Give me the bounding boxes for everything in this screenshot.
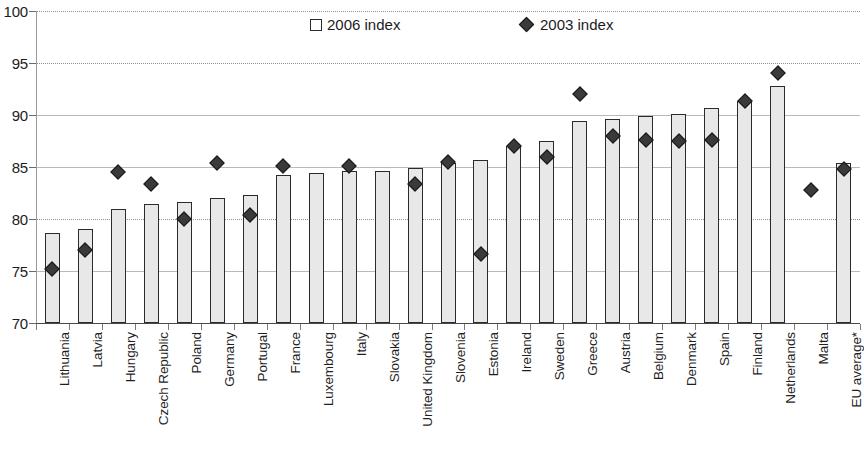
x-label-latvia: Latvia	[90, 332, 105, 367]
x-label-eu-average: EU average*	[849, 332, 864, 407]
x-label-ireland: Ireland	[519, 332, 534, 373]
x-label-lithuania: Lithuania	[57, 332, 72, 386]
x-label-spain: Spain	[717, 332, 732, 366]
x-label-hungary: Hungary	[123, 332, 138, 382]
y-tick-mark-100	[29, 11, 36, 12]
x-label-slovakia: Slovakia	[387, 332, 402, 382]
y-tick-mark-75	[29, 271, 36, 272]
x-label-denmark: Denmark	[684, 332, 699, 386]
x-label-netherlands: Netherlands	[783, 332, 798, 404]
x-label-france: France	[288, 332, 303, 373]
x-label-finland: Finland	[750, 332, 765, 376]
x-label-italy: Italy	[354, 332, 369, 356]
x-label-greece: Greece	[585, 332, 600, 376]
y-tick-mark-95	[29, 63, 36, 64]
y-tick-mark-90	[29, 115, 36, 116]
x-label-sweden: Sweden	[552, 332, 567, 380]
x-label-slovenia: Slovenia	[453, 332, 468, 383]
y-tick-mark-85	[29, 167, 36, 168]
x-label-germany: Germany	[222, 332, 237, 387]
x-label-estonia: Estonia	[486, 332, 501, 376]
x-label-belgium: Belgium	[651, 332, 666, 380]
x-label-malta: Malta	[816, 332, 831, 365]
y-tick-mark-70	[29, 323, 36, 324]
y-tick-mark-80	[29, 219, 36, 220]
x-axis-ticks	[0, 0, 864, 340]
x-label-czech-republic: Czech Republic	[156, 332, 171, 425]
x-label-poland: Poland	[189, 332, 204, 373]
x-label-austria: Austria	[618, 332, 633, 373]
chart-container: 2006 index 2003 index 707580859095100 Li…	[0, 0, 864, 453]
x-label-luxembourg: Luxembourg	[321, 332, 336, 406]
x-axis-category-labels: LithuaniaLatviaHungaryCzech RepublicPola…	[0, 330, 864, 453]
x-label-portugal: Portugal	[255, 332, 270, 381]
x-label-united-kingdom: United Kingdom	[420, 332, 435, 427]
